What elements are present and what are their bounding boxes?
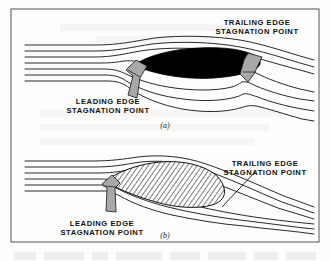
panel-b-trailing-edge-label-line1: TRAILING EDGE xyxy=(232,159,299,168)
panel-a-leading-edge-label-line2: STAGNATION POINT xyxy=(66,106,149,115)
panel-b-trailing-edge-label-line2: STAGNATION POINT xyxy=(223,168,306,177)
panel-a-trailing-edge-label-line2: STAGNATION POINT xyxy=(215,27,298,36)
panel-b-letter: (b) xyxy=(160,231,170,240)
panel-a-trailing-edge-label-line1: TRAILING EDGE xyxy=(224,18,291,27)
panel-b-leading-edge-label-line1: LEADING EDGE xyxy=(70,219,134,228)
panel-a-letter: (a) xyxy=(160,121,170,130)
panel-a-leading-edge-label-line1: LEADING EDGE xyxy=(76,97,140,106)
figure-container: LEADING EDGE STAGNATION POINT TRAILING E… xyxy=(0,0,330,261)
panel-b-leading-edge-label-line2: STAGNATION POINT xyxy=(60,228,143,237)
stagnation-point-figure: LEADING EDGE STAGNATION POINT TRAILING E… xyxy=(0,0,330,261)
